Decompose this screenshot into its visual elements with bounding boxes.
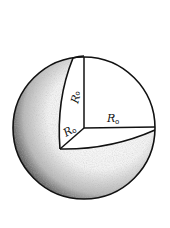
- sphere-diagram: R o R o R o: [0, 0, 170, 228]
- label-subscript: o: [115, 118, 119, 126]
- horizontal-radius-line: [84, 127, 155, 128]
- label-main: R: [106, 112, 115, 125]
- cutaway-octant: [84, 57, 155, 128]
